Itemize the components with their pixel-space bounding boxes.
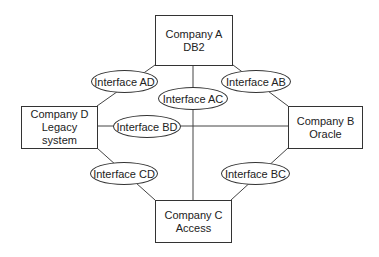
node-title: Company C <box>164 209 222 222</box>
interface-label: Interface AC <box>163 93 224 105</box>
interface-label: Interface AD <box>94 76 155 88</box>
node-title: Company B <box>297 115 354 128</box>
interface-ad[interactable]: Interface AD <box>91 70 158 93</box>
interface-label: Interface CD <box>93 168 155 180</box>
interface-label: Interface BC <box>225 168 286 180</box>
node-company-d[interactable]: Company D Legacy system <box>21 106 98 149</box>
interface-label: Interface AB <box>226 76 286 88</box>
node-subtitle: DB2 <box>183 41 204 54</box>
node-company-c[interactable]: Company C Access <box>155 200 232 243</box>
node-title: Company D <box>30 108 88 121</box>
node-company-a[interactable]: Company A DB2 <box>155 15 233 66</box>
interface-ac[interactable]: Interface AC <box>158 87 228 110</box>
node-title: Company A <box>166 28 223 41</box>
node-company-b[interactable]: Company B Oracle <box>288 106 363 149</box>
interface-ab[interactable]: Interface AB <box>221 70 291 93</box>
node-subtitle: Oracle <box>309 128 341 141</box>
interface-bc[interactable]: Interface BC <box>221 162 290 185</box>
interface-cd[interactable]: Interface CD <box>90 162 158 185</box>
interface-label: Interface BD <box>116 121 177 133</box>
node-subtitle-2: system <box>42 134 77 147</box>
node-subtitle: Access <box>176 222 211 235</box>
interface-bd[interactable]: Interface BD <box>113 115 181 138</box>
node-subtitle: Legacy <box>42 121 77 134</box>
